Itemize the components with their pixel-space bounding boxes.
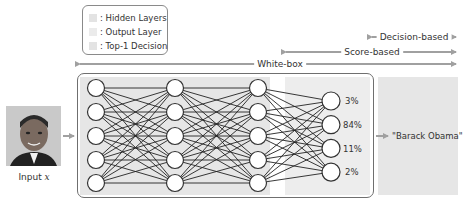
hidden-node-l1-1 bbox=[88, 80, 105, 97]
output-score-4: 2% bbox=[345, 167, 359, 177]
face-photo-icon bbox=[6, 106, 61, 166]
output-node-1 bbox=[322, 92, 340, 110]
hidden-node-l2-1 bbox=[167, 80, 184, 97]
hidden-node-l3-5 bbox=[250, 175, 267, 192]
hidden-node-l3-2 bbox=[250, 104, 267, 121]
input-face-image bbox=[6, 106, 61, 166]
hidden-node-l2-5 bbox=[167, 175, 184, 192]
network-edges bbox=[96, 88, 331, 183]
output-score-3: 11% bbox=[343, 144, 362, 154]
output-node-3 bbox=[322, 139, 340, 157]
top1-decision-label: "Barack Obama" bbox=[392, 131, 463, 141]
input-label: Input x bbox=[18, 172, 49, 182]
hidden-node-l1-2 bbox=[88, 104, 105, 121]
hidden-node-l2-4 bbox=[167, 152, 184, 169]
hidden-node-l2-3 bbox=[167, 128, 184, 145]
hidden-node-l1-4 bbox=[88, 152, 105, 169]
output-node-2 bbox=[322, 116, 340, 134]
output-score-2: 84% bbox=[343, 120, 362, 130]
hidden-node-l3-1 bbox=[250, 80, 267, 97]
hidden-node-l1-3 bbox=[88, 128, 105, 145]
hidden-node-l1-5 bbox=[88, 175, 105, 192]
output-score-1: 3% bbox=[345, 96, 359, 106]
output-node-4 bbox=[322, 163, 340, 181]
hidden-node-l3-3 bbox=[250, 128, 267, 145]
hidden-node-l3-4 bbox=[250, 152, 267, 169]
hidden-node-l2-2 bbox=[167, 104, 184, 121]
